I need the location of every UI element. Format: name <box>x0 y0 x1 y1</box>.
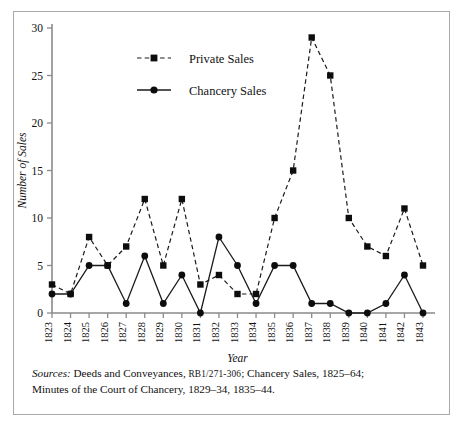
sources-label: Sources: <box>32 367 71 379</box>
data-point-chancery-1826 <box>104 262 111 269</box>
x-axis-tick-label: 1825 <box>80 322 91 343</box>
legend-entry-chancery-sales: Chancery Sales <box>137 84 267 98</box>
source-line-1: Sources: Deeds and Conveyances, RB1/271-… <box>32 366 432 382</box>
x-axis-tick-label: 1829 <box>154 322 165 343</box>
x-axis-tick-label: 1837 <box>303 322 314 343</box>
data-point-private-1840 <box>364 243 370 249</box>
x-axis-tick-label: 1836 <box>284 322 295 343</box>
x-axis-tick-label: 1838 <box>321 322 332 343</box>
data-point-private-1831 <box>197 281 203 287</box>
x-axis-tick-label: 1824 <box>62 321 73 343</box>
data-point-chancery-1824 <box>67 291 74 298</box>
data-point-chancery-1836 <box>290 262 297 269</box>
data-point-private-1832 <box>216 272 222 278</box>
y-axis-title: Number of Sales <box>16 132 29 210</box>
data-point-chancery-1832 <box>216 234 223 241</box>
data-point-chancery-1825 <box>86 262 93 269</box>
data-point-chancery-1830 <box>178 272 185 279</box>
x-axis-tick-label: 1834 <box>247 321 258 343</box>
x-axis-title: Year <box>227 352 248 364</box>
y-axis-tick-label: 0 <box>37 307 43 319</box>
x-axis-tick-label: 1835 <box>266 322 277 343</box>
source-line-2: Minutes of the Court of Chancery, 1829–3… <box>32 382 432 398</box>
data-point-chancery-1823 <box>49 291 56 298</box>
data-point-private-1823 <box>49 281 55 287</box>
data-point-chancery-1839 <box>345 310 352 317</box>
data-point-private-1839 <box>346 215 352 221</box>
x-axis-tick-label: 1831 <box>191 322 202 343</box>
x-axis-tick-label: 1827 <box>117 322 128 343</box>
x-axis-tick-label: 1833 <box>229 322 240 343</box>
x-axis-tick-label: 1830 <box>173 322 184 343</box>
source-line-1-part-b: ; Chancery Sales, 1825–64; <box>241 367 364 379</box>
data-point-chancery-1837 <box>308 300 315 307</box>
y-axis-tick-label: 25 <box>32 70 44 82</box>
data-point-chancery-1834 <box>253 300 260 307</box>
y-axis-tick-label: 30 <box>32 22 44 34</box>
data-point-chancery-1831 <box>197 310 204 317</box>
data-point-chancery-1838 <box>327 300 334 307</box>
y-axis-tick-label: 15 <box>32 165 44 177</box>
data-point-private-1828 <box>142 196 148 202</box>
data-point-private-1827 <box>123 243 129 249</box>
data-point-private-1825 <box>86 234 92 240</box>
legend-entry-private-sales: Private Sales <box>137 52 254 66</box>
data-point-chancery-1828 <box>141 253 148 260</box>
x-axis-tick-label: 1823 <box>43 322 54 343</box>
data-point-private-1843 <box>420 262 426 268</box>
data-point-chancery-1843 <box>420 310 427 317</box>
data-point-private-1834 <box>253 291 259 297</box>
data-point-chancery-1840 <box>364 310 371 317</box>
data-point-private-1830 <box>179 196 185 202</box>
x-axis-tick-label: 1843 <box>414 322 425 343</box>
data-point-chancery-1841 <box>383 300 390 307</box>
y-axis-tick-label: 10 <box>32 212 44 224</box>
data-point-private-1842 <box>401 205 407 211</box>
data-point-chancery-1842 <box>401 272 408 279</box>
x-axis-tick-label: 1841 <box>377 322 388 343</box>
y-axis-tick-label: 5 <box>37 260 43 272</box>
series-line-private-sales <box>52 38 423 295</box>
x-axis-tick-label: 1842 <box>395 322 406 343</box>
data-point-private-1835 <box>271 215 277 221</box>
data-point-chancery-1835 <box>271 262 278 269</box>
data-point-private-1837 <box>309 34 315 40</box>
data-point-private-1836 <box>290 167 296 173</box>
x-axis-tick-label: 1839 <box>340 322 351 343</box>
data-point-private-1841 <box>383 253 389 259</box>
data-point-chancery-1833 <box>234 262 241 269</box>
x-axis-tick-label: 1828 <box>136 322 147 343</box>
data-point-chancery-1827 <box>123 300 130 307</box>
source-reference-code: RB1/271-306 <box>188 369 241 379</box>
data-point-private-1833 <box>234 291 240 297</box>
x-axis-tick-label: 1826 <box>99 322 110 343</box>
source-line-1-part-a: Deeds and Conveyances, <box>71 367 189 379</box>
data-point-private-1829 <box>160 262 166 268</box>
source-note: Sources: Deeds and Conveyances, RB1/271-… <box>32 366 432 398</box>
legend-marker-circle <box>150 86 157 93</box>
data-point-private-1838 <box>327 72 333 78</box>
y-axis-tick-label: 20 <box>32 117 44 129</box>
legend-label: Chancery Sales <box>189 84 267 98</box>
legend-label: Private Sales <box>189 52 254 66</box>
x-axis-tick-label: 1832 <box>210 322 221 343</box>
x-axis-tick-label: 1840 <box>358 322 369 343</box>
legend-marker-square <box>151 55 158 62</box>
data-point-chancery-1829 <box>160 300 167 307</box>
